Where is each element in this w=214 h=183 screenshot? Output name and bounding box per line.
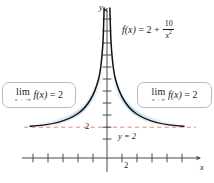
limit-callout-negative-infinity[interactable]: lim x → −∞ f(x) = 2: [2, 82, 76, 108]
limit-word-right: lim: [152, 87, 166, 97]
limit-value-right: 2: [192, 90, 197, 100]
limit-subscript-left: x → −∞: [15, 98, 31, 103]
function-name: f(x): [122, 25, 136, 35]
limit-subscript-right: x → ∞: [152, 98, 165, 103]
limit-body-left: f(x): [33, 90, 47, 100]
function-fraction: 10 x2: [163, 20, 174, 40]
y-axis-tick-label-2: 2: [85, 121, 89, 131]
y-axis-label: y: [99, 2, 103, 12]
curve-left-branch: [30, 8, 104, 126]
asymptote-equation-label: y = 2: [118, 131, 136, 141]
limit-expression-left: lim x → −∞ f(x) = 2: [15, 87, 63, 102]
function-constant-term: 2: [147, 25, 152, 35]
fraction-denominator: x2: [165, 30, 173, 40]
fraction-numerator: 10: [164, 20, 174, 28]
limit-callout-positive-infinity[interactable]: lim x → ∞ f(x) = 2: [137, 82, 212, 108]
limit-body-right: f(x): [168, 90, 182, 100]
function-plus-sign: +: [154, 25, 160, 35]
limit-equals-left: =: [50, 90, 56, 100]
limit-equals-right: =: [184, 90, 190, 100]
x-axis-tick-label-2: 2: [124, 160, 128, 170]
denominator-exponent: 2: [169, 29, 172, 35]
x-axis-label: x: [200, 162, 204, 172]
limit-expression-right: lim x → ∞ f(x) = 2: [152, 87, 198, 102]
limit-value-left: 2: [58, 90, 63, 100]
limit-graph-figure: y x 2 2 y = 2 f(x) = 2 + 10 x2 lim x → −…: [0, 0, 214, 183]
limit-operator-right: lim x → ∞: [152, 87, 166, 102]
limit-word-left: lim: [16, 87, 30, 97]
function-formula-label: f(x) = 2 + 10 x2: [122, 20, 174, 40]
function-equals: =: [138, 25, 144, 35]
limit-operator-left: lim x → −∞: [15, 87, 31, 102]
